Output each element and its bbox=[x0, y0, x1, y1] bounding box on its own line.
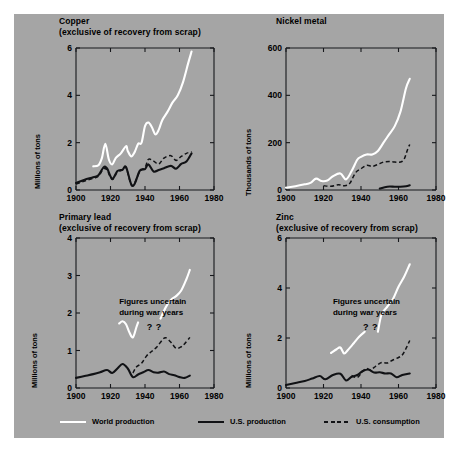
chart-copper-title-main: Copper bbox=[59, 16, 201, 27]
svg-text:1940: 1940 bbox=[352, 391, 371, 401]
chart-copper-title-sub: (exclusive of recovery from scrap) bbox=[59, 27, 201, 38]
svg-text:2: 2 bbox=[67, 308, 72, 318]
series-u-s-consumption bbox=[324, 145, 410, 187]
svg-text:1980: 1980 bbox=[427, 193, 446, 203]
legend-item-us-production: U.S. production bbox=[198, 417, 286, 426]
svg-text:1920: 1920 bbox=[101, 193, 120, 203]
legend-item-us-consumption: U.S. consumption bbox=[324, 417, 420, 426]
uncertainty-question-mark: ? bbox=[156, 322, 162, 332]
chart-zinc: Zinc (exclusive of recovery from scrap) … bbox=[222, 210, 444, 408]
uncertainty-question-mark: ? bbox=[372, 322, 378, 332]
chart-nickel-plot: 190019201940196019800200400600 bbox=[222, 14, 444, 209]
svg-text:1960: 1960 bbox=[170, 391, 189, 401]
annotation-line: Figures uncertain bbox=[333, 297, 400, 306]
figure-panel: Copper (exclusive of recovery from scrap… bbox=[14, 14, 444, 438]
series-u-s-consumption bbox=[133, 337, 190, 373]
chart-zinc-title-sub: (exclusive of recovery from scrap) bbox=[276, 223, 418, 234]
svg-text:3: 3 bbox=[67, 271, 72, 281]
svg-text:1: 1 bbox=[67, 346, 72, 356]
series-world-production bbox=[286, 79, 410, 188]
svg-text:6: 6 bbox=[277, 233, 282, 243]
uncertainty-question-mark: ? bbox=[363, 322, 369, 332]
svg-text:4: 4 bbox=[67, 233, 72, 243]
chart-primary-lead-plot: 1900192019401960198001234Figures uncerta… bbox=[14, 210, 229, 408]
svg-text:1980: 1980 bbox=[427, 391, 446, 401]
svg-text:200: 200 bbox=[268, 138, 282, 148]
series-u-s-production bbox=[76, 153, 192, 186]
legend-label-us-production: U.S. production bbox=[230, 417, 286, 426]
annotation-line: during war years bbox=[119, 308, 184, 317]
chart-nickel-title-main: Nickel metal bbox=[276, 16, 327, 27]
svg-text:0: 0 bbox=[277, 185, 282, 195]
svg-text:1940: 1940 bbox=[352, 193, 371, 203]
annotation-line: during war years bbox=[333, 308, 398, 317]
svg-text:0: 0 bbox=[67, 383, 72, 393]
chart-primary-lead-ylabel: Millions of tons bbox=[30, 333, 39, 388]
chart-copper-ylabel: Millions of tons bbox=[33, 134, 42, 189]
legend-item-world-production: World production bbox=[60, 417, 154, 426]
legend-label-us-consumption: U.S. consumption bbox=[356, 417, 420, 426]
chart-nickel-ylabel: Thousands of tons bbox=[244, 129, 253, 196]
legend-label-world-production: World production bbox=[92, 417, 154, 426]
chart-primary-lead: Primary lead (exclusive of recovery from… bbox=[14, 210, 229, 408]
svg-text:1960: 1960 bbox=[389, 391, 408, 401]
svg-text:1960: 1960 bbox=[389, 193, 408, 203]
svg-text:6: 6 bbox=[67, 43, 72, 53]
chart-primary-lead-title-sub: (exclusive of recovery from scrap) bbox=[59, 223, 201, 234]
series-world-production bbox=[119, 321, 138, 337]
svg-text:1920: 1920 bbox=[314, 193, 333, 203]
chart-primary-lead-title: Primary lead (exclusive of recovery from… bbox=[59, 212, 201, 233]
svg-text:0: 0 bbox=[67, 185, 72, 195]
series-world-production bbox=[331, 332, 365, 354]
annotation-line: Figures uncertain bbox=[119, 297, 186, 306]
svg-text:1920: 1920 bbox=[101, 391, 120, 401]
svg-text:1980: 1980 bbox=[205, 193, 224, 203]
uncertainty-question-mark: ? bbox=[147, 322, 153, 332]
svg-text:1980: 1980 bbox=[205, 391, 224, 401]
svg-text:0: 0 bbox=[277, 383, 282, 393]
chart-copper-title: Copper (exclusive of recovery from scrap… bbox=[59, 16, 201, 37]
series-u-s-production bbox=[286, 369, 410, 385]
svg-text:1960: 1960 bbox=[170, 193, 189, 203]
svg-text:4: 4 bbox=[67, 90, 72, 100]
svg-text:1940: 1940 bbox=[136, 193, 155, 203]
series-u-s-production bbox=[380, 185, 410, 188]
chart-zinc-title-main: Zinc bbox=[276, 212, 418, 223]
legend-swatch-world-production-icon bbox=[60, 421, 86, 423]
svg-text:1940: 1940 bbox=[136, 391, 155, 401]
svg-text:2: 2 bbox=[277, 333, 282, 343]
svg-text:400: 400 bbox=[268, 90, 282, 100]
series-world-production bbox=[93, 52, 191, 167]
svg-text:1920: 1920 bbox=[314, 391, 333, 401]
legend-swatch-us-consumption-icon bbox=[324, 421, 350, 423]
chart-zinc-title: Zinc (exclusive of recovery from scrap) bbox=[276, 212, 418, 233]
chart-primary-lead-title-main: Primary lead bbox=[59, 212, 201, 223]
svg-text:600: 600 bbox=[268, 43, 282, 53]
svg-text:2: 2 bbox=[67, 138, 72, 148]
series-u-s-production bbox=[76, 364, 190, 378]
chart-nickel-title: Nickel metal bbox=[276, 16, 327, 27]
chart-zinc-ylabel: Millions of tons bbox=[244, 333, 253, 388]
legend-swatch-us-production-icon bbox=[198, 421, 224, 423]
legend: World production U.S. production U.S. co… bbox=[14, 408, 444, 438]
chart-copper-plot: 190019201940196019800246 bbox=[14, 14, 229, 209]
chart-copper: Copper (exclusive of recovery from scrap… bbox=[14, 14, 229, 209]
chart-zinc-plot: 190019201940196019800246Figures uncertai… bbox=[222, 210, 444, 408]
chart-nickel: Nickel metal Thousands of tons 190019201… bbox=[222, 14, 444, 209]
svg-text:4: 4 bbox=[277, 283, 282, 293]
